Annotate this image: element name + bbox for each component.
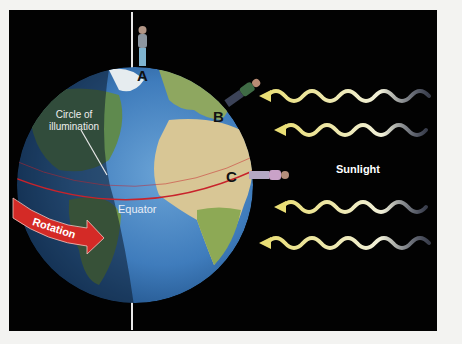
label-c: C [226, 168, 237, 185]
sunlight-ray-2 [282, 125, 426, 135]
circle-of-illumination-label: Circle of illumination [49, 109, 99, 133]
sunlight-ray-4 [267, 238, 429, 248]
observer-b [224, 77, 263, 108]
sunlight-label: Sunlight [336, 163, 380, 175]
sunlight-ray-1 [267, 91, 429, 101]
sunlight-arrowheads [259, 90, 286, 249]
label-b: B [213, 108, 224, 125]
observer-a [138, 26, 147, 66]
diagram-frame: A B C Circle of illumination Equator Rot… [9, 10, 437, 331]
label-line-2: illumination [49, 121, 99, 133]
label-a: A [137, 67, 148, 84]
sunlight-ray-3 [282, 202, 426, 212]
label-line-1: Circle of [49, 109, 99, 121]
equator-label: Equator [118, 203, 157, 215]
observer-c [249, 170, 289, 180]
